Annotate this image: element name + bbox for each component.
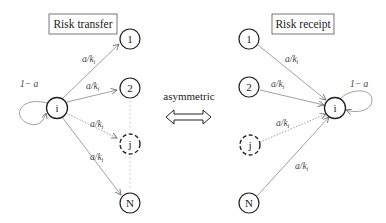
svg-text:a/ki: a/ki [82,54,96,65]
left-node-N: N [120,193,140,213]
svg-text:a/ki: a/ki [276,118,290,129]
svg-text:i: i [333,102,336,114]
left-node-i: i [47,98,68,119]
right-edge-N-i [257,117,329,196]
left-edge-label-N: a/ki [90,152,104,163]
right-edge-label-j: a/ki [276,118,290,129]
left-edge-label-j: a/ki [90,119,104,130]
right-edge-label-2: a/ki [271,79,285,90]
svg-text:j: j [127,138,131,150]
right-self-loop-label: 1− a [350,79,369,89]
left-panel-risk-transfer: Risk transfer 1− a a/ki a/ki a/ki a/ki i [20,14,140,213]
left-node-2: 2 [120,78,140,98]
right-panel-risk-receipt: Risk receipt 1− a a/ki a/ki a/ki a/ki 1 [239,14,372,213]
double-arrow-icon [166,110,211,124]
right-node-2: 2 [239,77,259,97]
svg-text:a/ki: a/ki [90,119,104,130]
left-edge-i-2 [67,90,117,102]
svg-text:1: 1 [127,33,133,45]
right-title-box: Risk receipt [272,14,334,34]
svg-text:a/ki: a/ki [285,54,299,65]
svg-text:a/ki: a/ki [86,81,100,92]
left-node-1: 1 [120,29,140,49]
svg-text:2: 2 [246,81,252,93]
left-node-j: j [120,134,140,154]
right-edge-label-N: a/ki [295,161,309,172]
right-edge-2-i [260,90,324,105]
svg-text:a/ki: a/ki [271,79,285,90]
right-node-i: i [325,98,346,119]
right-node-1: 1 [239,29,259,49]
svg-text:i: i [55,102,58,114]
right-title: Risk receipt [275,18,331,31]
svg-text:N: N [245,197,253,209]
left-self-loop [20,102,47,125]
left-title: Risk transfer [53,18,112,30]
left-edge-label-2: a/ki [86,81,100,92]
right-edge-j-i [260,114,326,142]
middle-asymmetric: asymmetric [163,90,214,124]
left-edge-label-1: a/ki [82,54,96,65]
svg-text:2: 2 [127,82,133,94]
svg-text:1: 1 [246,33,252,45]
right-edge-label-1: a/ki [285,54,299,65]
svg-text:j: j [247,139,251,151]
svg-text:a/ki: a/ki [90,152,104,163]
right-node-N: N [239,193,259,213]
left-title-box: Risk transfer [49,14,117,34]
right-node-j: j [240,135,260,155]
svg-text:a/ki: a/ki [295,161,309,172]
svg-text:N: N [126,197,134,209]
asymmetric-label: asymmetric [163,90,214,102]
left-self-loop-label: 1− a [20,79,39,89]
risk-network-diagram: Risk transfer 1− a a/ki a/ki a/ki a/ki i [0,0,386,223]
